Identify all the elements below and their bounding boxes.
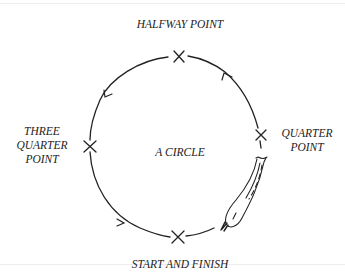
quarter-point-line-2: POINT bbox=[272, 140, 342, 154]
three-quarter-line-3: POINT bbox=[2, 152, 82, 166]
x-mark-quarter-icon bbox=[256, 130, 266, 140]
arc-halfway-to-three-quarter bbox=[90, 57, 168, 140]
halfway-point-label: HALFWAY POINT bbox=[120, 17, 240, 31]
arrow-down-right-icon bbox=[117, 219, 124, 226]
quarter-point-line-1: QUARTER bbox=[272, 126, 342, 140]
arc-three-quarter-to-start bbox=[90, 152, 170, 237]
x-mark-three-quarter-icon bbox=[84, 141, 96, 152]
three-quarter-point-label: THREE QUARTER POINT bbox=[2, 124, 82, 166]
x-mark-start-icon bbox=[172, 231, 184, 243]
three-quarter-line-2: QUARTER bbox=[2, 138, 82, 152]
dash-below-quarter bbox=[260, 141, 261, 148]
start-finish-label: START AND FINISH bbox=[100, 257, 260, 271]
quarter-point-label: QUARTER POINT bbox=[272, 126, 342, 154]
circle-title: A CIRCLE bbox=[130, 145, 230, 159]
x-mark-halfway-icon bbox=[174, 51, 184, 62]
arc-quarter-to-halfway bbox=[188, 56, 258, 128]
pencil-icon bbox=[221, 157, 267, 231]
arrow-up-right-icon bbox=[222, 73, 232, 80]
three-quarter-line-1: THREE bbox=[2, 124, 82, 138]
arc-start-to-pencil bbox=[186, 228, 214, 236]
